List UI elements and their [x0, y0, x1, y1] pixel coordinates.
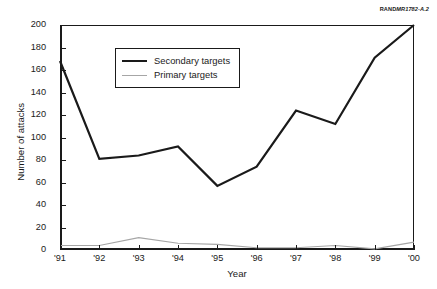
y-tick-mark [60, 228, 66, 229]
y-tick-mark [60, 160, 66, 161]
y-tick-mark [60, 25, 66, 26]
x-axis-title: Year [60, 269, 414, 279]
x-tick-label: '00 [408, 254, 420, 263]
x-tick-label: '91 [54, 254, 66, 263]
legend-label-secondary: Secondary targets [154, 56, 230, 65]
y-tick-mark [60, 205, 66, 206]
x-tick-mark [60, 245, 61, 250]
y-tick-mark [60, 70, 66, 71]
y-tick-mark [60, 138, 66, 139]
x-tick-label: '98 [329, 254, 341, 263]
y-tick-label: 100 [31, 133, 46, 142]
series-line-primary-targets [60, 238, 414, 249]
y-tick-mark [60, 48, 66, 49]
y-tick-label: 200 [31, 20, 46, 29]
y-tick-label: 20 [36, 223, 46, 232]
x-tick-label: '96 [251, 254, 263, 263]
y-tick-label: 80 [36, 155, 46, 164]
x-axis-tick-labels: '91'92'93'94'95'96'97'98'99'00 [60, 254, 414, 268]
x-tick-mark [335, 245, 336, 250]
y-tick-mark [60, 183, 66, 184]
x-tick-mark [257, 245, 258, 250]
x-tick-mark [414, 245, 415, 250]
x-tick-mark [99, 245, 100, 250]
chart-figure: RANDMR1782-A.2 Number of attacks 0204060… [0, 0, 437, 289]
y-axis-tick-labels: 020406080100120140160180200 [0, 25, 54, 250]
legend-item-secondary-targets: Secondary targets [122, 54, 230, 68]
legend-item-primary-targets: Primary targets [122, 68, 230, 82]
y-tick-mark [60, 115, 66, 116]
x-tick-label: '97 [290, 254, 302, 263]
y-tick-label: 60 [36, 178, 46, 187]
x-tick-mark [217, 245, 218, 250]
x-tick-label: '92 [93, 254, 105, 263]
legend-line-icon-primary [122, 75, 147, 76]
x-tick-label: '94 [172, 254, 184, 263]
x-tick-label: '95 [211, 254, 223, 263]
y-tick-label: 140 [31, 88, 46, 97]
y-tick-label: 40 [36, 200, 46, 209]
chart-legend: Secondary targets Primary targets [115, 48, 240, 88]
credit-code: MR1782-A.2 [396, 6, 429, 12]
y-tick-label: 160 [31, 65, 46, 74]
x-tick-mark [178, 245, 179, 250]
source-credit: RANDMR1782-A.2 [380, 7, 429, 13]
y-tick-label: 180 [31, 43, 46, 52]
y-tick-mark [60, 93, 66, 94]
x-tick-mark [296, 245, 297, 250]
x-tick-mark [139, 245, 140, 250]
y-tick-label: 120 [31, 110, 46, 119]
credit-brand: RAND [380, 6, 397, 12]
x-tick-mark [375, 245, 376, 250]
legend-label-primary: Primary targets [154, 70, 218, 79]
y-tick-label: 0 [41, 245, 46, 254]
legend-line-icon-secondary [122, 60, 147, 62]
x-tick-label: '99 [369, 254, 381, 263]
x-tick-label: '93 [133, 254, 145, 263]
